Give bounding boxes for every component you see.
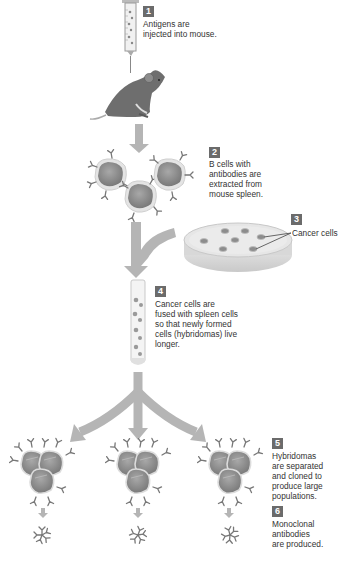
- arrow-down-icon: [133, 508, 143, 518]
- step-5-badge: 5: [272, 438, 283, 449]
- arrow-down-icon: [224, 508, 234, 518]
- step-4-caption: Cancer cells are fused with spleen cells…: [155, 299, 238, 349]
- syringe-icon: [122, 0, 139, 73]
- mouse-icon: [90, 70, 165, 119]
- cancer-cells-label: Cancer cells: [292, 228, 338, 238]
- antibody-icon: [34, 527, 50, 544]
- step-3-badge: 3: [291, 214, 302, 225]
- merge-arrow-icon: [124, 222, 176, 278]
- hybridoma-cluster-icon: [106, 438, 171, 505]
- hybridoma-cluster-icon: [10, 438, 75, 505]
- step-5-caption: Hybridomas are separated and cloned to p…: [272, 451, 323, 501]
- step-6-caption: Monoclonal antibodies are produced.: [272, 519, 323, 549]
- arrow-down-icon: [129, 124, 149, 153]
- step-2-caption: B cells with antibodies are extracted fr…: [209, 159, 263, 199]
- hybridoma-cluster-icon: [198, 438, 263, 505]
- antibody-icon: [220, 525, 240, 545]
- antibody-icon: [128, 525, 149, 546]
- test-tube-icon: [131, 280, 145, 365]
- step-6-badge: 6: [272, 506, 283, 517]
- step-1-badge: 1: [143, 6, 154, 17]
- arrow-down-icon: [38, 508, 48, 518]
- step-4-badge: 4: [155, 286, 166, 297]
- petri-dish-icon: [184, 223, 292, 272]
- split-arrow-icon: [80, 372, 196, 432]
- step-1-caption: Antigens are injected into mouse.: [143, 19, 217, 39]
- step-2-badge: 2: [209, 147, 220, 158]
